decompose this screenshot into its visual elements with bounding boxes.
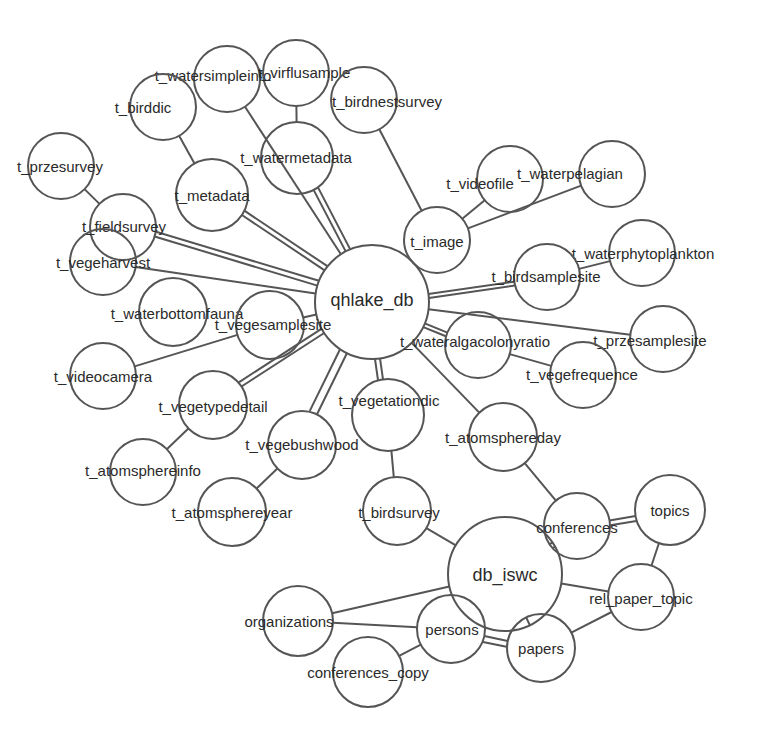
node-label: conferences xyxy=(536,519,618,536)
node-t_birdnestsurvey[interactable]: t_birdnestsurvey xyxy=(331,67,443,133)
edge-persons-conferences_copy xyxy=(399,645,421,656)
node-label: t_birdsurvey xyxy=(358,504,440,521)
node-label: rel_paper_topic xyxy=(589,590,693,607)
edge-t_atomsphereday-conferences xyxy=(525,463,556,501)
node-label: t_waterpelagian xyxy=(517,165,623,182)
node-t_przesurvey[interactable]: t_przesurvey xyxy=(17,133,103,199)
node-t_metadata[interactable]: t_metadata xyxy=(174,159,250,231)
node-t_birddic[interactable]: t_birddic xyxy=(115,74,196,140)
edge-organizations-persons xyxy=(333,623,417,627)
node-t_atomsphereinfo[interactable]: t_atomsphereinfo xyxy=(85,439,201,505)
node-organizations[interactable]: organizations xyxy=(244,586,333,656)
database-relationship-graph: qhlake_dbt_watersimpleinfot_virflusample… xyxy=(0,0,770,738)
node-persons[interactable]: persons xyxy=(417,595,485,663)
node-label: t_wateralgacolonyratio xyxy=(400,333,550,350)
node-papers[interactable]: papers xyxy=(507,614,575,682)
node-label: t_birdsamplesite xyxy=(491,268,600,285)
edge-t_metadata-t_birddic xyxy=(179,136,194,164)
edge-qhlake_db-t_vegetationdic xyxy=(380,358,383,379)
node-label: t_atomsphereday xyxy=(445,429,561,446)
edge-t_vegebushwood-t_atomsphereyear xyxy=(257,469,278,489)
node-rel_paper_topic[interactable]: rel_paper_topic xyxy=(589,564,693,630)
node-label: papers xyxy=(518,640,564,657)
edge-qhlake_db-t_vegebushwood xyxy=(310,350,340,411)
node-circle[interactable] xyxy=(352,379,424,451)
node-label: t_vegetypedetail xyxy=(158,398,267,415)
node-label: topics xyxy=(650,502,689,519)
node-topics[interactable]: topics xyxy=(635,475,705,545)
node-t_birdsurvey[interactable]: t_birdsurvey xyxy=(358,477,440,545)
nodes-layer: qhlake_dbt_watersimpleinfot_virflusample… xyxy=(17,40,714,707)
node-label: t_birdnestsurvey xyxy=(332,93,443,110)
node-label: t_vegetationdic xyxy=(339,392,440,409)
edge-rel_paper_topic-papers xyxy=(571,612,611,633)
node-label: t_metadata xyxy=(174,187,250,204)
node-label: qhlake_db xyxy=(330,290,413,311)
node-t_image[interactable]: t_image xyxy=(404,207,470,273)
edge-qhlake_db-t_vegetationdic xyxy=(375,359,378,380)
node-label: t_watermetadata xyxy=(240,149,352,166)
node-label: t_przesamplesite xyxy=(593,332,706,349)
node-label: organizations xyxy=(244,613,333,630)
node-label: t_vegebushwood xyxy=(245,436,358,453)
node-t_atomsphereday[interactable]: t_atomsphereday xyxy=(445,403,561,471)
node-label: t_image xyxy=(410,233,463,250)
node-label: t_vegefrequence xyxy=(526,366,638,383)
node-label: t_birddic xyxy=(115,99,172,116)
node-label: t_atomsphereyear xyxy=(172,504,293,521)
edge-persons-papers xyxy=(484,636,507,641)
node-t_atomsphereyear[interactable]: t_atomsphereyear xyxy=(172,478,293,546)
edge-t_fieldsurvey-t_przesurvey xyxy=(85,189,100,204)
node-t_watermetadata[interactable]: t_watermetadata xyxy=(240,122,352,194)
node-label: t_vegeharvest xyxy=(56,254,151,271)
node-label: t_przesurvey xyxy=(17,158,103,175)
node-label: db_iswc xyxy=(472,565,537,586)
edge-persons-papers xyxy=(483,642,507,647)
node-t_vegebushwood[interactable]: t_vegebushwood xyxy=(245,411,358,479)
node-label: conferences_copy xyxy=(307,664,429,681)
edge-topics-rel_paper_topic xyxy=(651,543,659,566)
node-label: t_videofile xyxy=(446,175,514,192)
edge-t_vegetationdic-t_birdsurvey xyxy=(391,451,393,477)
edge-t_vegetypedetail-t_atomsphereinfo xyxy=(167,429,189,450)
node-t_videocamera[interactable]: t_videocamera xyxy=(54,343,153,409)
node-label: t_videocamera xyxy=(54,368,153,385)
edge-qhlake_db-t_watermetadata xyxy=(318,188,350,250)
edge-qhlake_db-t_wateralgacolonyratio xyxy=(425,323,448,332)
node-label: t_atomsphereinfo xyxy=(85,462,201,479)
edge-t_wateralgacolonyratio-t_vegefrequence xyxy=(510,354,552,366)
edge-t_image-t_birdnestsurvey xyxy=(379,129,421,210)
edge-t_birdsurvey-db_iswc xyxy=(426,528,455,545)
node-t_waterbottomfauna[interactable]: t_waterbottomfauna xyxy=(111,278,244,346)
edge-t_image-t_videofile xyxy=(462,200,484,219)
edge-qhlake_db-t_metadata xyxy=(245,211,328,266)
node-label: t_virflusample xyxy=(258,64,351,81)
node-conferences_copy[interactable]: conferences_copy xyxy=(307,637,429,707)
node-label: persons xyxy=(425,621,478,638)
node-label: t_waterphytoplankton xyxy=(572,245,715,262)
node-t_vegefrequence[interactable]: t_vegefrequence xyxy=(526,342,638,408)
node-t_vegesamplesite[interactable]: t_vegesamplesite xyxy=(215,291,332,359)
node-label: t_vegesamplesite xyxy=(215,316,332,333)
